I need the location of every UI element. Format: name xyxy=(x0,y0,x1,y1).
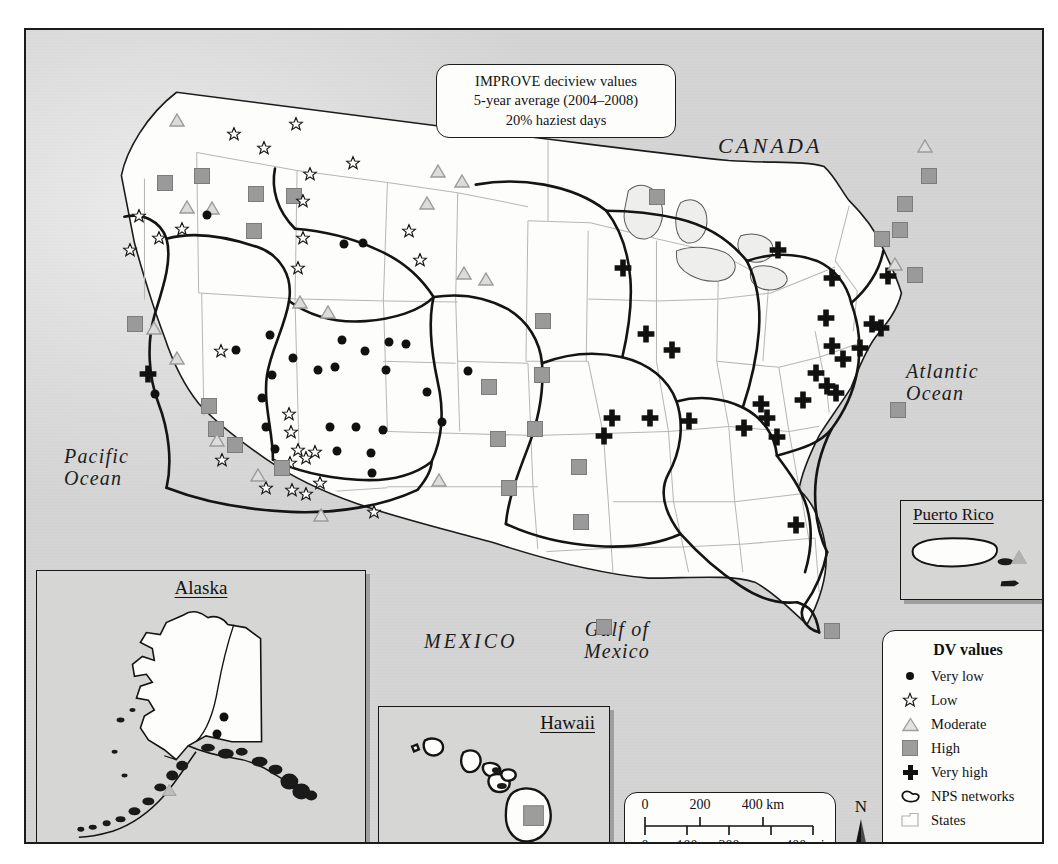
marker-low xyxy=(285,483,300,502)
marker-moderate xyxy=(431,473,447,491)
marker-moderate xyxy=(1011,550,1027,564)
marker-moderate xyxy=(430,164,446,182)
marker-very-low xyxy=(464,367,473,376)
marker-very-high xyxy=(752,395,771,418)
legend-item-nps-networks[interactable]: NPS networks xyxy=(883,784,1044,808)
alaska-shape xyxy=(37,571,365,844)
north-arrow: N xyxy=(844,798,878,844)
marker-very-high xyxy=(817,309,836,332)
marker-very-low xyxy=(340,240,349,249)
map-title-line-3: 20% haziest days xyxy=(506,111,607,131)
marker-high xyxy=(227,437,243,453)
scale-mi-tick-400: 400 mi xyxy=(785,838,824,844)
marker-very-low xyxy=(203,211,212,220)
marker-low xyxy=(152,231,167,250)
legend-item-moderate[interactable]: Moderate xyxy=(883,712,1044,736)
marker-very-high xyxy=(637,325,656,348)
marker-very-high xyxy=(768,428,787,451)
map-page: CANADA MEXICO Pacific Ocean Atlantic Oce… xyxy=(0,0,1058,864)
marker-very-low xyxy=(402,340,411,349)
marker-high xyxy=(534,367,550,383)
legend-item-very-low[interactable]: Very low xyxy=(883,664,1044,688)
marker-low xyxy=(284,425,299,444)
legend-item-high[interactable]: High xyxy=(883,736,1044,760)
marker-low xyxy=(282,407,297,426)
marker-high xyxy=(907,267,923,283)
marker-high xyxy=(274,460,290,476)
marker-moderate xyxy=(320,305,336,323)
marker-very-high xyxy=(827,384,846,407)
legend-item-very-high[interactable]: Very high xyxy=(883,760,1044,784)
map-title-line-2: 5-year average (2004–2008) xyxy=(474,91,638,111)
marker-very-low xyxy=(338,336,347,345)
marker-very-high xyxy=(641,409,660,432)
legend-label-nps-networks: NPS networks xyxy=(931,788,1014,805)
marker-very-low xyxy=(258,394,267,403)
marker-very-high xyxy=(787,516,806,539)
state-outline-icon xyxy=(899,810,921,830)
puerto-rico-inset: Puerto Rico xyxy=(900,500,1044,600)
map-title-line-1: IMPROVE deciview values xyxy=(475,72,637,92)
marker-moderate xyxy=(209,433,225,451)
scale-bar-km-labels: 0 200 400 km xyxy=(635,797,825,814)
scale-bar: 0 200 400 km 0 100 xyxy=(624,792,836,844)
marker-high xyxy=(649,189,665,205)
marker-very-low xyxy=(367,449,376,458)
marker-low xyxy=(123,243,138,262)
marker-low xyxy=(367,505,382,524)
marker-very-low xyxy=(382,366,391,375)
marker-high xyxy=(127,316,143,332)
marker-very-low xyxy=(268,371,277,380)
marker-moderate xyxy=(179,200,195,218)
legend-label-high: High xyxy=(931,740,960,757)
marker-very-low xyxy=(289,354,298,363)
marker-moderate xyxy=(917,139,933,157)
marker-very-low xyxy=(262,423,271,432)
legend-item-low[interactable]: Low xyxy=(883,688,1044,712)
marker-low xyxy=(303,167,318,186)
marker-low xyxy=(313,476,328,495)
scale-bar-mi-labels: 0 100 200 400 mi xyxy=(635,838,825,844)
marker-high xyxy=(246,223,262,239)
marker-moderate xyxy=(478,272,494,290)
legend-label-low: Low xyxy=(931,692,958,709)
marker-high xyxy=(824,623,840,639)
marker-very-high xyxy=(663,341,682,364)
scale-mi-tick-100: 100 xyxy=(677,838,698,844)
hawaii-inset: Hawaii xyxy=(378,706,610,844)
scale-km-tick-400: 400 km xyxy=(742,797,784,813)
network-outline-icon xyxy=(899,786,921,806)
marker-low xyxy=(296,231,311,250)
marker-moderate xyxy=(169,113,185,131)
marker-moderate xyxy=(250,468,266,486)
marker-very-low xyxy=(331,363,340,372)
marker-low xyxy=(296,194,311,213)
north-arrow-icon xyxy=(848,817,874,844)
marker-moderate xyxy=(419,196,435,214)
marker-very-high xyxy=(595,427,614,450)
marker-high xyxy=(501,480,517,496)
marker-very-low xyxy=(314,366,323,375)
map-legend: DV values Very low Low xyxy=(882,630,1044,844)
marker-low xyxy=(214,344,229,363)
scale-km-tick-0: 0 xyxy=(642,797,649,813)
legend-label-very-high: Very high xyxy=(931,764,988,781)
north-arrow-label: N xyxy=(844,798,878,815)
marker-moderate xyxy=(313,508,329,526)
marker-low xyxy=(227,127,242,146)
marker-high xyxy=(527,421,543,437)
marker-high xyxy=(596,619,612,635)
legend-item-states[interactable]: States xyxy=(883,808,1044,832)
marker-very-low xyxy=(379,426,388,435)
marker-very-low xyxy=(368,469,377,478)
marker-very-low xyxy=(385,338,394,347)
marker-moderate xyxy=(292,295,308,313)
marker-very-low xyxy=(352,423,361,432)
legend-label-very-low: Very low xyxy=(931,668,984,685)
marker-low xyxy=(308,445,323,464)
marker-low xyxy=(257,141,272,160)
marker-very-low xyxy=(438,418,447,427)
marker-very-high xyxy=(139,365,158,388)
marker-very-low xyxy=(326,423,335,432)
square-icon xyxy=(899,738,921,758)
